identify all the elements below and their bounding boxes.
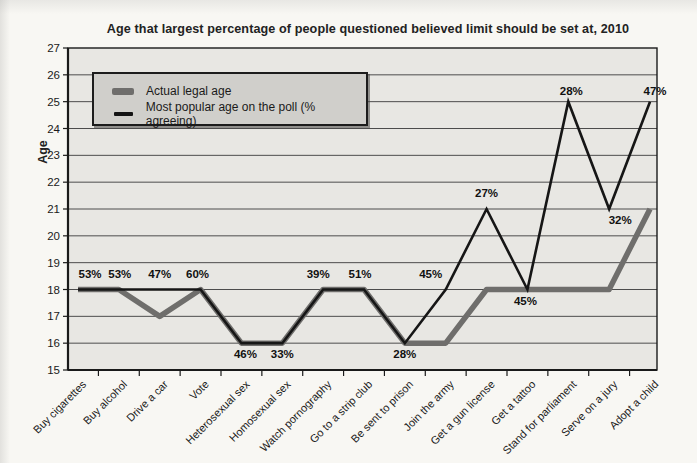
pct-label: 39% xyxy=(307,268,330,280)
pct-label: 53% xyxy=(78,268,101,280)
pct-label: 28% xyxy=(560,85,583,97)
x-tick-label: Buy cigarettes xyxy=(31,378,89,436)
pct-label: 33% xyxy=(271,348,294,360)
pct-label: 28% xyxy=(393,348,416,360)
chart-svg: 1516171819202122232425262753%53%47%60%46… xyxy=(0,0,697,463)
x-tick-label: Vote xyxy=(187,378,211,402)
y-tick-label: 18 xyxy=(47,284,60,296)
thick-gray-line-swatch xyxy=(112,88,134,95)
pct-label: 32% xyxy=(609,214,632,226)
y-tick-label: 17 xyxy=(47,310,60,322)
x-tick-label: Drive a car xyxy=(124,378,170,424)
y-tick-label: 20 xyxy=(47,230,60,242)
thin-black-line-swatch xyxy=(114,112,133,116)
y-tick-label: 16 xyxy=(47,337,60,349)
pct-label: 27% xyxy=(475,187,498,199)
pct-label: 46% xyxy=(234,348,257,360)
y-tick-label: 15 xyxy=(47,364,60,376)
pct-label: 60% xyxy=(186,268,209,280)
pct-label: 45% xyxy=(514,295,537,307)
x-tick-label: Watch pornography xyxy=(257,378,333,454)
pct-label: 53% xyxy=(108,268,131,280)
pct-label: 51% xyxy=(348,268,371,280)
y-tick-label: 23 xyxy=(47,149,60,161)
y-tick-label: 27 xyxy=(47,42,60,54)
y-tick-label: 25 xyxy=(47,96,60,108)
chart-figure: Age that largest percentage of people qu… xyxy=(0,0,697,463)
x-tick-label: Buy alcohol xyxy=(81,378,130,427)
y-tick-label: 19 xyxy=(47,257,60,269)
legend-item-poll-age: Most popular age on the poll (% agreeing… xyxy=(104,104,366,124)
y-tick-label: 26 xyxy=(47,69,60,81)
y-tick-label: 21 xyxy=(47,203,60,215)
y-tick-label: 22 xyxy=(47,176,60,188)
y-tick-label: 24 xyxy=(47,123,60,135)
legend-label-poll: Most popular age on the poll (% agreeing… xyxy=(146,100,366,128)
x-tick-label: Stand for parliament xyxy=(500,378,579,457)
pct-label: 47% xyxy=(643,85,666,97)
pct-label: 45% xyxy=(419,268,442,280)
legend-label-actual: Actual legal age xyxy=(146,84,231,98)
legend: Actual legal age Most popular age on the… xyxy=(92,72,368,126)
legend-item-actual-legal-age: Actual legal age xyxy=(104,81,366,101)
pct-label: 47% xyxy=(148,268,171,280)
